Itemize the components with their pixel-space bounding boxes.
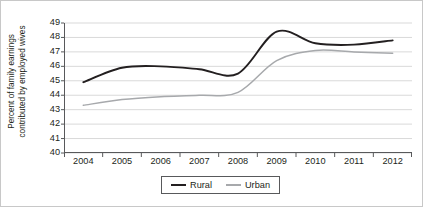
y-axis-tick-labels: 40414243444546474849 — [37, 23, 60, 153]
x-tick-label-2012: 2012 — [382, 156, 402, 167]
y-axis-title-line-1: Percent of family earnings — [8, 25, 19, 137]
x-tick-label-2011: 2011 — [344, 156, 364, 167]
legend-line-icon-rural — [171, 184, 186, 186]
y-axis-title-line-2: contributed by employed wives — [18, 25, 29, 137]
x-tick-label-2010: 2010 — [305, 156, 325, 167]
y-tick-label-48: 48 — [37, 33, 60, 42]
x-tick-label-2004: 2004 — [73, 156, 93, 167]
y-tick-label-44: 44 — [37, 91, 60, 100]
x-tick-label-2006: 2006 — [150, 156, 170, 167]
legend-line-icon-urban — [226, 184, 241, 186]
legend-label-rural: Rural — [190, 180, 212, 190]
y-axis-title: Percent of family earnings contributed b… — [1, 1, 35, 161]
x-tick-label-2008: 2008 — [228, 156, 248, 167]
y-tick-label-46: 46 — [37, 62, 60, 71]
chart-legend: Rural Urban — [161, 176, 280, 194]
y-tick-label-43: 43 — [37, 105, 60, 114]
chart-figure: Percent of family earnings contributed b… — [0, 0, 423, 207]
x-tick-label-2007: 2007 — [189, 156, 209, 167]
y-tick-label-40: 40 — [37, 148, 60, 157]
y-tick-label-45: 45 — [37, 76, 60, 85]
series-line-rural — [83, 31, 392, 83]
y-tick-label-47: 47 — [37, 47, 60, 56]
x-tick-label-2009: 2009 — [266, 156, 286, 167]
legend-entry-urban: Urban — [226, 180, 270, 190]
chart-plot-svg — [64, 23, 412, 153]
y-tick-label-41: 41 — [37, 134, 60, 143]
legend-label-urban: Urban — [245, 180, 270, 190]
x-axis-tick-labels: 200420052006200720082009201020112012 — [64, 156, 412, 170]
plot-area — [64, 23, 412, 153]
y-tick-label-49: 49 — [37, 18, 60, 27]
x-tick-label-2005: 2005 — [112, 156, 132, 167]
legend-entry-rural: Rural — [171, 180, 212, 190]
y-tick-label-42: 42 — [37, 120, 60, 129]
series-line-urban — [83, 50, 392, 105]
